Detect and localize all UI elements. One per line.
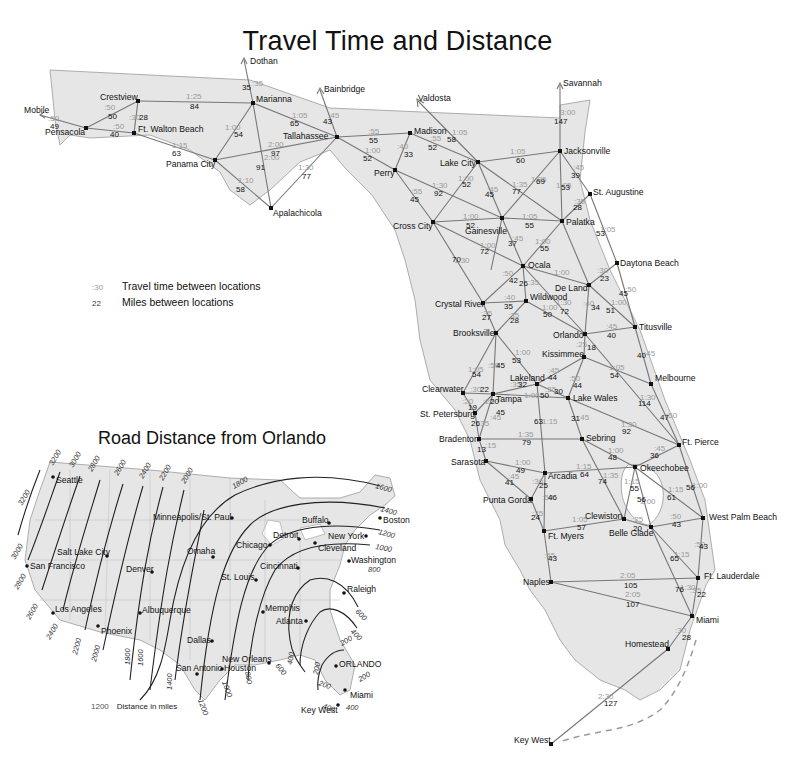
- svg-text:Pensacola: Pensacola: [45, 127, 85, 137]
- svg-text:105: 105: [624, 581, 638, 590]
- svg-text:Gainesville: Gainesville: [465, 226, 507, 236]
- svg-text:127: 127: [604, 699, 618, 708]
- svg-text:Mobile: Mobile: [24, 105, 50, 115]
- svg-text:43: 43: [672, 520, 681, 529]
- svg-text:55: 55: [525, 221, 534, 230]
- svg-text:Minneapolis/St. Paul: Minneapolis/St. Paul: [153, 512, 231, 522]
- svg-text:22: 22: [480, 385, 489, 394]
- svg-text:Bainbridge: Bainbridge: [324, 84, 365, 94]
- svg-text:Palatka: Palatka: [566, 217, 595, 227]
- svg-text::40: :40: [504, 293, 516, 302]
- svg-text:72: 72: [560, 307, 569, 316]
- svg-text:52: 52: [363, 154, 372, 163]
- svg-text:72: 72: [480, 247, 489, 256]
- svg-text:Omaha: Omaha: [187, 546, 215, 556]
- svg-text:Miami: Miami: [696, 615, 719, 625]
- svg-text:53: 53: [512, 356, 521, 365]
- svg-text:Washington: Washington: [351, 555, 396, 565]
- svg-text:Lakeland: Lakeland: [510, 373, 545, 383]
- svg-text:45: 45: [619, 289, 628, 298]
- svg-text:23: 23: [600, 274, 609, 283]
- svg-text:63: 63: [534, 417, 543, 426]
- svg-text:Boston: Boston: [383, 515, 410, 525]
- svg-text:Apalachicola: Apalachicola: [273, 208, 322, 218]
- svg-text:Ft. Myers: Ft. Myers: [548, 531, 584, 541]
- svg-text:Madison: Madison: [414, 126, 447, 136]
- svg-text:Los Angeles: Los Angeles: [55, 604, 102, 614]
- svg-text:Ft. Walton Beach: Ft. Walton Beach: [138, 124, 204, 134]
- svg-text:Titusville: Titusville: [639, 322, 672, 332]
- svg-text:33: 33: [404, 150, 413, 159]
- svg-text:45: 45: [496, 408, 505, 417]
- svg-text:Punta Gorda: Punta Gorda: [483, 495, 532, 505]
- svg-text:Jacksonville: Jacksonville: [564, 146, 611, 156]
- svg-text:3000: 3000: [9, 541, 26, 561]
- svg-text:Crestview: Crestview: [100, 92, 139, 102]
- svg-text:800: 800: [368, 565, 381, 574]
- svg-text:30: 30: [554, 387, 563, 396]
- svg-text:Orlando: Orlando: [553, 330, 584, 340]
- svg-text:1:00: 1:00: [463, 212, 479, 221]
- svg-text:2200: 2200: [70, 636, 83, 656]
- svg-text:Dothan: Dothan: [250, 56, 278, 66]
- svg-text:40: 40: [607, 331, 616, 340]
- svg-text::15: :15: [485, 441, 497, 450]
- svg-text:1200: 1200: [196, 698, 210, 718]
- svg-text:3:00: 3:00: [560, 108, 576, 117]
- svg-text:1:15: 1:15: [542, 417, 558, 426]
- svg-text:Houston: Houston: [224, 663, 256, 673]
- svg-text:Raleigh: Raleigh: [347, 584, 376, 594]
- svg-text:28: 28: [139, 113, 148, 122]
- svg-text:Dallas: Dallas: [187, 635, 211, 645]
- svg-text:24: 24: [531, 513, 540, 522]
- svg-text:St. Petersburg: St. Petersburg: [420, 409, 475, 419]
- svg-text:ORLANDO: ORLANDO: [339, 659, 382, 669]
- svg-text:45: 45: [496, 361, 505, 370]
- svg-text:1000: 1000: [375, 542, 394, 554]
- svg-text:43: 43: [323, 117, 332, 126]
- svg-text:56: 56: [686, 483, 695, 492]
- svg-text:1400: 1400: [165, 672, 174, 690]
- svg-text:Crystal River: Crystal River: [435, 299, 484, 309]
- svg-text:54: 54: [472, 370, 481, 379]
- svg-text:43: 43: [699, 542, 708, 551]
- svg-text:Salt Lake City: Salt Lake City: [57, 547, 111, 557]
- svg-text:91: 91: [256, 163, 265, 172]
- svg-text:84: 84: [190, 102, 199, 111]
- svg-text:1600: 1600: [136, 648, 145, 666]
- svg-text:St. Augustine: St. Augustine: [593, 187, 644, 197]
- svg-text:Bradenton: Bradenton: [439, 434, 479, 444]
- svg-text:Chicago: Chicago: [236, 540, 268, 550]
- svg-text:Ft. Pierce: Ft. Pierce: [682, 437, 719, 447]
- svg-text:40: 40: [110, 130, 119, 139]
- svg-text:Detroit: Detroit: [273, 530, 299, 540]
- svg-text:1:05: 1:05: [510, 147, 526, 156]
- svg-text:60: 60: [516, 156, 525, 165]
- svg-text:1:10: 1:10: [238, 176, 254, 185]
- svg-text:Savannah: Savannah: [563, 78, 602, 88]
- svg-text:48: 48: [608, 453, 617, 462]
- svg-text:200: 200: [311, 661, 322, 677]
- svg-text:Wildwood: Wildwood: [530, 292, 567, 302]
- svg-text:52: 52: [462, 180, 471, 189]
- svg-text:2000: 2000: [89, 643, 102, 663]
- svg-text::45: :45: [606, 322, 618, 331]
- svg-text:147: 147: [554, 117, 568, 126]
- svg-text:55: 55: [369, 136, 378, 145]
- svg-text:45: 45: [410, 195, 419, 204]
- svg-text:64: 64: [580, 470, 589, 479]
- svg-text:2600: 2600: [23, 601, 40, 622]
- svg-text:Miami: Miami: [350, 690, 373, 700]
- svg-text::50: :50: [104, 103, 116, 112]
- svg-text:Tallahassee: Tallahassee: [283, 131, 329, 141]
- svg-text::55: :55: [368, 127, 380, 136]
- svg-text:Perry: Perry: [374, 168, 395, 178]
- svg-text:46: 46: [548, 493, 557, 502]
- svg-text:65: 65: [670, 554, 679, 563]
- svg-text:Marianna: Marianna: [256, 94, 292, 104]
- svg-text:Key West: Key West: [301, 705, 338, 715]
- svg-text::35: :35: [528, 278, 540, 287]
- svg-text:97: 97: [271, 149, 280, 158]
- svg-text:Cincinnati: Cincinnati: [260, 561, 298, 571]
- svg-text:Arcadia: Arcadia: [548, 471, 577, 481]
